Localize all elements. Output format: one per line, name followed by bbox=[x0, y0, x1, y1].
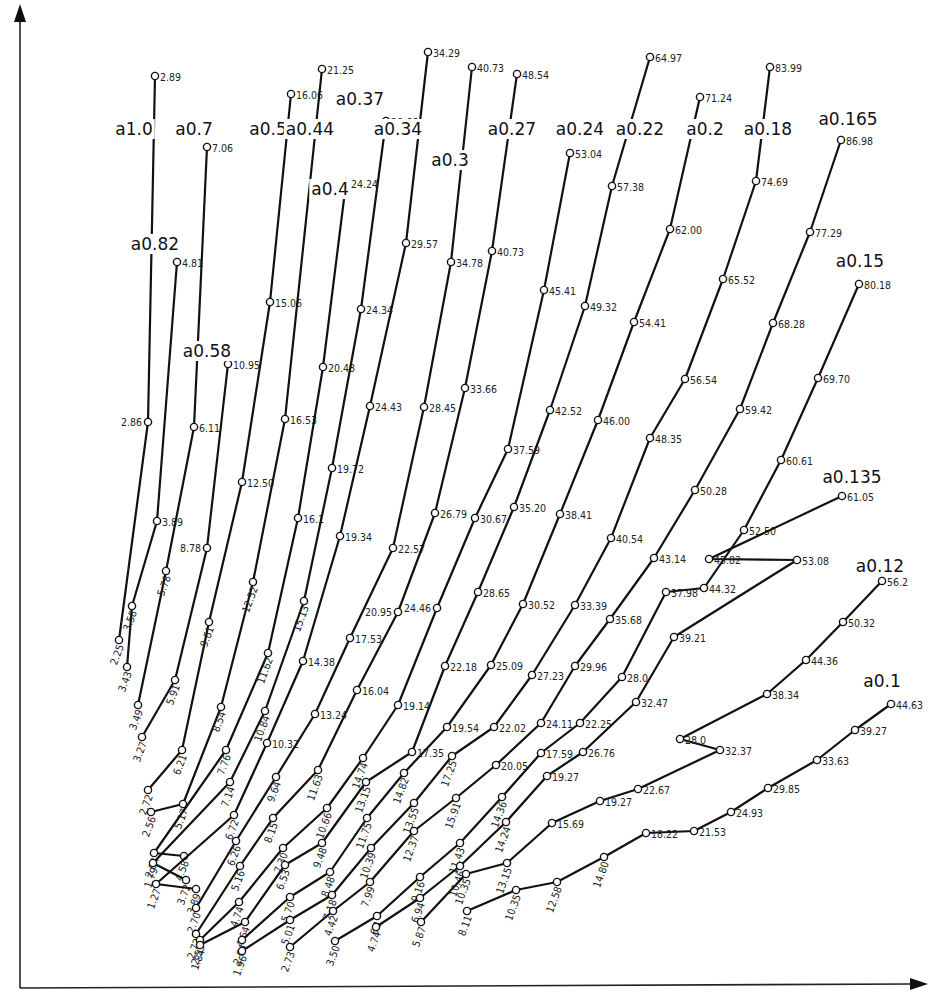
curve-a0-24: 2.534.747.3010.6614.7419.1424.4630.6737.… bbox=[188, 148, 602, 966]
data-point-label: 22.18 bbox=[450, 661, 477, 673]
data-point-marker bbox=[513, 70, 520, 77]
curve-name-label: a0.12 bbox=[856, 556, 904, 576]
data-point-label: 8.54 bbox=[209, 710, 227, 734]
axes bbox=[14, 4, 928, 990]
data-point-marker bbox=[353, 686, 360, 693]
data-point-label: 62.00 bbox=[675, 224, 702, 236]
data-point-label: 26.76 bbox=[588, 747, 615, 759]
curve-line bbox=[119, 76, 155, 640]
data-point-label: 46.00 bbox=[603, 415, 630, 427]
data-point-marker bbox=[249, 578, 256, 585]
data-point-marker bbox=[468, 63, 475, 70]
data-point-marker bbox=[232, 837, 239, 844]
data-point-marker bbox=[839, 618, 846, 625]
data-point-marker bbox=[238, 936, 245, 943]
data-point-marker bbox=[238, 947, 245, 954]
data-point-label: 29.57 bbox=[411, 238, 438, 250]
data-point-marker bbox=[269, 814, 276, 821]
data-point-marker bbox=[299, 657, 306, 664]
data-point-marker bbox=[394, 608, 401, 615]
data-point-label: 12.58 bbox=[543, 885, 564, 915]
data-point-label: 24.46 bbox=[404, 602, 431, 614]
data-point-marker bbox=[581, 302, 588, 309]
data-point-marker bbox=[537, 749, 544, 756]
data-point-marker bbox=[424, 48, 431, 55]
curve-line bbox=[156, 52, 428, 889]
data-point-marker bbox=[462, 870, 469, 877]
data-point-marker bbox=[410, 799, 417, 806]
data-point-label: 22.67 bbox=[643, 784, 670, 796]
data-point-label: 24.24 bbox=[351, 178, 378, 190]
data-point-marker bbox=[151, 72, 158, 79]
data-point-marker bbox=[235, 898, 242, 905]
data-point-label: 24.93 bbox=[736, 807, 763, 819]
x-axis bbox=[20, 984, 912, 988]
data-point-marker bbox=[806, 228, 813, 235]
data-point-marker bbox=[766, 63, 773, 70]
curve-name-label: a0.135 bbox=[822, 467, 881, 487]
data-point-label: 5.91 bbox=[163, 683, 181, 707]
data-point-label: 6.11 bbox=[199, 422, 220, 434]
data-point-marker bbox=[528, 671, 535, 678]
data-point-marker bbox=[319, 363, 326, 370]
data-point-marker bbox=[596, 797, 603, 804]
data-point-label: 54.41 bbox=[639, 317, 666, 329]
data-point-marker bbox=[696, 93, 703, 100]
curve-name-label: a0.58 bbox=[183, 341, 231, 361]
data-point-marker bbox=[632, 698, 639, 705]
data-point-label: 17.35 bbox=[417, 747, 444, 759]
data-point-marker bbox=[389, 544, 396, 551]
curve-name-label: a0.24 bbox=[556, 119, 604, 139]
data-point-marker bbox=[359, 754, 366, 761]
data-point-label: 17.25 bbox=[438, 759, 459, 789]
data-point-marker bbox=[463, 907, 470, 914]
data-point-label: 8.11 bbox=[455, 914, 473, 938]
data-point-marker bbox=[144, 786, 151, 793]
data-point-marker bbox=[474, 588, 481, 595]
data-point-label: 2.73 bbox=[278, 950, 296, 974]
data-point-marker bbox=[690, 827, 697, 834]
data-point-marker bbox=[662, 588, 669, 595]
curve-name-label: a0.22 bbox=[616, 119, 664, 139]
data-point-label: 5.78 bbox=[154, 574, 172, 598]
y-axis-arrow-icon bbox=[14, 4, 26, 22]
curve-a0-135: 4.746.9410.4614.2419.2726.7632.4739.2153… bbox=[364, 491, 874, 953]
data-point-marker bbox=[263, 739, 270, 746]
data-point-marker bbox=[182, 876, 189, 883]
data-point-marker bbox=[416, 894, 423, 901]
curve-name-label: a0.165 bbox=[818, 109, 877, 129]
data-point-marker bbox=[566, 149, 573, 156]
data-point-label: 18.22 bbox=[651, 828, 678, 840]
data-point-marker bbox=[512, 886, 519, 893]
data-point-marker bbox=[281, 415, 288, 422]
data-point-marker bbox=[666, 225, 673, 232]
data-point-label: 7.06 bbox=[212, 142, 233, 154]
data-point-label: 56.2 bbox=[887, 576, 908, 588]
data-point-label: 42.52 bbox=[555, 405, 582, 417]
data-point-label: 25.09 bbox=[496, 660, 523, 672]
data-point-marker bbox=[498, 793, 505, 800]
data-point-marker bbox=[553, 878, 560, 885]
curve-name-label: a0.5 bbox=[249, 119, 286, 139]
curve-name-label: a0.34 bbox=[374, 119, 422, 139]
data-point-label: 29.85 bbox=[773, 783, 800, 795]
data-point-label: 40.54 bbox=[616, 533, 643, 545]
data-point-label: 10.35 bbox=[502, 893, 523, 923]
data-point-marker bbox=[793, 556, 800, 563]
data-point-label: 15.13 bbox=[290, 604, 311, 634]
data-point-label: 45.41 bbox=[549, 285, 576, 297]
data-point-label: 27.23 bbox=[537, 670, 564, 682]
data-point-marker bbox=[461, 384, 468, 391]
data-point-marker bbox=[740, 526, 747, 533]
data-point-label: 21.25 bbox=[327, 64, 354, 76]
data-point-marker bbox=[769, 319, 776, 326]
data-point-marker bbox=[408, 748, 415, 755]
data-point-marker bbox=[241, 918, 248, 925]
data-point-label: 7.14 bbox=[218, 785, 236, 809]
curve-line bbox=[200, 57, 650, 945]
data-point-marker bbox=[490, 723, 497, 730]
data-point-marker bbox=[286, 893, 293, 900]
data-point-marker bbox=[492, 761, 499, 768]
data-point-marker bbox=[224, 360, 231, 367]
data-point-marker bbox=[152, 880, 159, 887]
